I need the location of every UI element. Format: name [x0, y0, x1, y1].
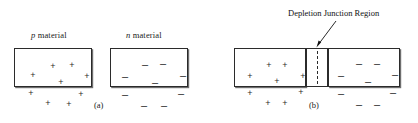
negative-charge-symbol: –	[160, 58, 166, 69]
negative-charge-symbol: –	[374, 99, 380, 110]
p-material-block: +++++++++	[14, 48, 92, 87]
negative-charge-symbol: –	[180, 70, 186, 81]
p-side-block: +++++++++	[234, 48, 306, 87]
panel-a-caption: (a)	[94, 100, 103, 110]
negative-charge-symbol: –	[122, 89, 128, 100]
leader-line	[318, 21, 336, 45]
positive-charge-symbol: +	[69, 61, 74, 70]
positive-charge-symbol: +	[58, 78, 63, 87]
positive-charge-symbol: +	[300, 72, 305, 81]
positive-charge-symbol: +	[274, 77, 279, 86]
positive-charge-symbol: +	[84, 72, 89, 81]
positive-charge-symbol: +	[265, 99, 270, 108]
depletion-junction-region	[306, 48, 328, 87]
negative-charge-symbol: –	[356, 99, 362, 110]
positive-charge-symbol: +	[282, 61, 287, 70]
positive-charge-symbol: +	[50, 62, 55, 71]
pn-junction-figure: p material n material +++++++++ ––––––––…	[0, 0, 418, 123]
positive-charge-symbol: +	[45, 99, 50, 108]
negative-charge-symbol: –	[142, 59, 148, 70]
negative-charge-symbol: –	[374, 58, 380, 69]
negative-charge-symbol: –	[365, 76, 371, 87]
n-material-label-rest: material	[130, 30, 161, 40]
negative-charge-symbol: –	[338, 88, 344, 99]
negative-charge-symbol: –	[390, 87, 396, 98]
positive-charge-symbol: +	[266, 61, 271, 70]
n-material-block: –––––––––	[110, 48, 188, 87]
panel-b-caption: (b)	[309, 100, 319, 110]
negative-charge-symbol: –	[178, 88, 184, 99]
positive-charge-symbol: +	[298, 88, 303, 97]
p-material-label-rest: material	[35, 30, 66, 40]
positive-charge-symbol: +	[78, 90, 83, 99]
positive-charge-symbol: +	[66, 100, 71, 109]
positive-charge-symbol: +	[247, 72, 252, 81]
negative-charge-symbol: –	[122, 71, 128, 82]
positive-charge-symbol: +	[28, 89, 33, 98]
negative-charge-symbol: –	[392, 69, 398, 80]
negative-charge-symbol: –	[161, 100, 167, 111]
depletion-center-dashed-line	[317, 51, 318, 84]
negative-charge-symbol: –	[338, 70, 344, 81]
depletion-region-annotation-text: Depletion Junction Region	[288, 8, 379, 18]
negative-charge-symbol: –	[141, 100, 147, 111]
positive-charge-symbol: +	[282, 99, 287, 108]
positive-charge-symbol: +	[247, 89, 252, 98]
positive-charge-symbol: +	[30, 71, 35, 80]
depletion-leader-arrow	[317, 21, 337, 48]
negative-charge-symbol: –	[356, 58, 362, 69]
n-material-label: n material	[126, 30, 162, 40]
leader-arrowhead	[317, 40, 322, 47]
p-material-label: p material	[31, 30, 67, 40]
n-side-block: –––––––––	[328, 48, 400, 87]
negative-charge-symbol: –	[152, 77, 158, 88]
